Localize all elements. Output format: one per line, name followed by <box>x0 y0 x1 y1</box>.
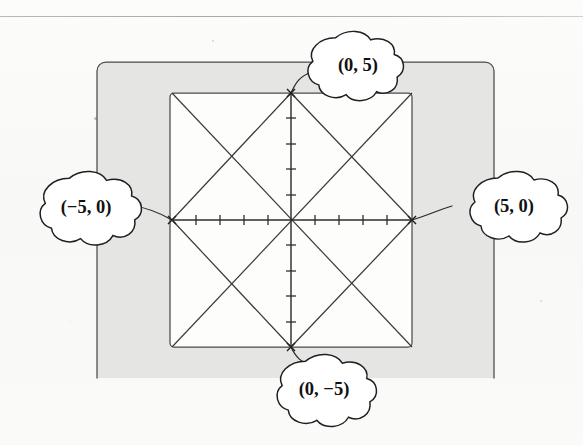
callout-top-label: (0, 5) <box>338 55 378 76</box>
callout-left[interactable]: (−5, 0) <box>40 171 141 244</box>
callout-right[interactable]: (5, 0) <box>470 171 567 242</box>
callout-left-label: (−5, 0) <box>61 197 112 218</box>
calculator-screen-figure: (0, 5) (−5, 0) (5, 0) (0, −5) <box>0 0 583 445</box>
callout-bottom[interactable]: (0, −5) <box>277 354 376 426</box>
callout-top[interactable]: (0, 5) <box>308 31 403 100</box>
callout-right-label: (5, 0) <box>494 196 534 217</box>
callout-bottom-label: (0, −5) <box>299 379 350 400</box>
